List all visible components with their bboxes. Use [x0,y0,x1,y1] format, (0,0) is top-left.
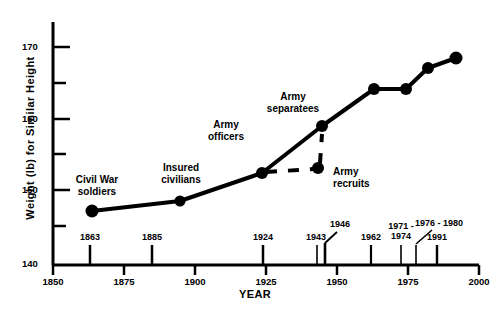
year-callout-1991: 1991 [417,232,457,242]
year-callout-1971-1974-line2: 1974 [381,231,421,241]
chart-canvas [0,0,503,316]
annotation-insured-line1: Insured [149,162,213,174]
year-callout-1946: 1946 [320,219,360,229]
y-tick-label-160: 160 [22,113,38,124]
x-tick-label-1875: 1875 [104,276,144,287]
x-axis-title: YEAR [200,288,310,300]
x-tick-label-1925: 1925 [246,276,286,287]
annotation-recruits-line2: recruits [333,178,393,190]
x-tick-label-1900: 1900 [175,276,215,287]
year-callout-1976-1980: 1976 - 1980 [404,218,474,228]
annotation-army-recruits: Army recruits [333,166,393,190]
year-callout-1943: 1943 [296,232,336,242]
annotation-civil-war-line2: soldiers [65,186,129,198]
x-tick-label-1950: 1950 [317,276,357,287]
annotation-separatees-line1: Army [253,91,333,103]
main-series-line [92,58,456,211]
y-tick-label-150: 150 [22,184,38,195]
year-callout-1885: 1885 [132,232,172,242]
annotation-army-separatees: Army separatees [253,91,333,115]
annotation-civil-war-soldiers: Civil War soldiers [65,174,129,198]
y-tick-label-140: 140 [22,258,38,269]
annotation-insured-line2: civilians [149,174,213,186]
y-axis-minor-ticks [53,83,66,226]
annotation-recruits-line1: Army [333,166,393,178]
annotation-officers-line2: officers [196,131,256,143]
y-axis-title: Weight (lb) for Similar Height [24,28,36,248]
y-tick-label-170: 170 [22,41,38,52]
year-callout-1924: 1924 [243,232,283,242]
x-tick-label-2000: 2000 [459,276,499,287]
annotation-civil-war-line1: Civil War [65,174,129,186]
annotation-insured-civilians: Insured civilians [149,162,213,186]
weight-by-year-chart: Weight (lb) for Similar Height YEAR 170 … [0,0,503,316]
year-callout-1863: 1863 [70,232,110,242]
annotation-separatees-line2: separatees [253,103,333,115]
annotation-army-officers: Army officers [196,119,256,143]
x-axis-year-callout-ticks [90,243,437,265]
data-point-markers [86,52,463,218]
y-axis-major-ticks [53,47,70,190]
x-tick-label-1850: 1850 [33,276,73,287]
x-tick-label-1975: 1975 [388,276,428,287]
annotation-officers-line1: Army [196,119,256,131]
